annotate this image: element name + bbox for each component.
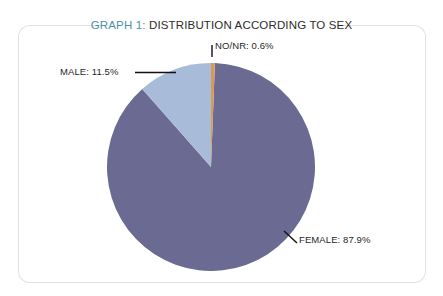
pie-label-nonr: NO/NR: 0.6% bbox=[215, 40, 274, 51]
chart-figure: GRAPH 1: DISTRIBUTION ACCORDING TO SEX N… bbox=[0, 0, 443, 296]
pie-label-female: FEMALE: 87.9% bbox=[299, 234, 371, 245]
pie-label-male: MALE: 11.5% bbox=[60, 66, 118, 77]
pie-slices bbox=[107, 63, 315, 271]
